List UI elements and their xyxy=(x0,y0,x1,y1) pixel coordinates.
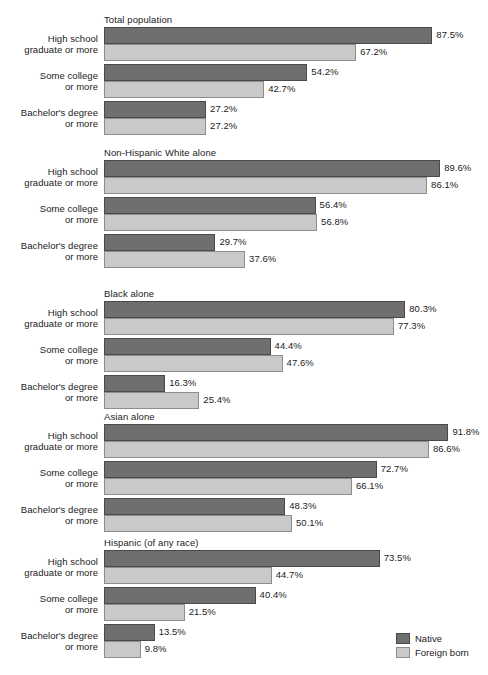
category-label-line2: graduate or more xyxy=(0,178,98,189)
bar-wrapper-foreign: 67.2% xyxy=(104,44,488,61)
bar-value-label: 40.4% xyxy=(260,589,287,601)
bar-wrapper-native: 40.4% xyxy=(104,587,488,604)
bar-foreign[interactable] xyxy=(104,44,356,61)
bar-native[interactable] xyxy=(104,375,165,392)
bar-value-label: 50.1% xyxy=(296,517,323,529)
bar-native[interactable] xyxy=(104,234,215,251)
bar-native[interactable] xyxy=(104,64,307,81)
bar-value-label: 47.6% xyxy=(287,357,314,369)
category-label: Bachelor's degreeor more xyxy=(0,241,98,262)
bar-value-label: 29.7% xyxy=(219,236,246,248)
bar-wrapper-native: 73.5% xyxy=(104,550,488,567)
bar-value-label: 13.5% xyxy=(159,626,186,638)
bar-wrapper-foreign: 86.1% xyxy=(104,177,488,194)
bar-native[interactable] xyxy=(104,461,377,478)
bar-value-label: 9.8% xyxy=(145,643,167,655)
category-label-line2: or more xyxy=(0,252,98,263)
group-title: Total population xyxy=(104,14,172,25)
category-label-line2: graduate or more xyxy=(0,319,98,330)
legend-label-foreign-born: Foreign born xyxy=(415,646,469,659)
bar-foreign[interactable] xyxy=(104,641,141,658)
group-title: Asian alone xyxy=(104,411,155,422)
category-label: Some collegeor more xyxy=(0,204,98,225)
bar-foreign[interactable] xyxy=(104,478,352,495)
category-label-line1: High school xyxy=(48,307,98,318)
bar-wrapper-native: 89.6% xyxy=(104,160,488,177)
bar-value-label: 21.5% xyxy=(189,606,216,618)
bar-native[interactable] xyxy=(104,27,432,44)
bar-foreign[interactable] xyxy=(104,214,317,231)
category-label-line1: Bachelor's degree xyxy=(21,381,98,392)
bar-value-label: 54.2% xyxy=(311,66,338,78)
bar-native[interactable] xyxy=(104,424,448,441)
bar-native[interactable] xyxy=(104,197,316,214)
bar-value-label: 72.7% xyxy=(381,463,408,475)
legend-swatch-foreign-born-icon xyxy=(396,647,410,658)
grouped-bar-chart: Total populationHigh schoolgraduate or m… xyxy=(0,0,488,675)
bar-foreign[interactable] xyxy=(104,441,429,458)
bar-wrapper-native: 91.8% xyxy=(104,424,488,441)
chart-category-row: High schoolgraduate or more80.3%77.3% xyxy=(0,301,488,337)
bar-wrapper-foreign: 77.3% xyxy=(104,318,488,335)
chart-category-row: Bachelor's degreeor more16.3%25.4% xyxy=(0,375,488,411)
bar-native[interactable] xyxy=(104,624,155,641)
bar-foreign[interactable] xyxy=(104,567,272,584)
bar-wrapper-foreign: 56.8% xyxy=(104,214,488,231)
bar-native[interactable] xyxy=(104,338,271,355)
category-label: High schoolgraduate or more xyxy=(0,431,98,452)
chart-category-row: Some collegeor more56.4%56.8% xyxy=(0,197,488,233)
bar-foreign[interactable] xyxy=(104,81,264,98)
category-label: High schoolgraduate or more xyxy=(0,167,98,188)
bar-foreign[interactable] xyxy=(104,355,283,372)
category-label: Bachelor's degreeor more xyxy=(0,631,98,652)
chart-category-row: High schoolgraduate or more87.5%67.2% xyxy=(0,27,488,63)
bar-native[interactable] xyxy=(104,498,285,515)
bar-foreign[interactable] xyxy=(104,118,206,135)
bar-native[interactable] xyxy=(104,301,405,318)
bar-foreign[interactable] xyxy=(104,515,292,532)
bar-native[interactable] xyxy=(104,550,380,567)
bar-foreign[interactable] xyxy=(104,318,394,335)
bar-wrapper-foreign: 27.2% xyxy=(104,118,488,135)
chart-category-row: High schoolgraduate or more73.5%44.7% xyxy=(0,550,488,586)
chart-group: Asian aloneHigh schoolgraduate or more91… xyxy=(0,411,488,535)
bar-value-label: 67.2% xyxy=(360,46,387,58)
bar-foreign[interactable] xyxy=(104,392,199,409)
bar-value-label: 48.3% xyxy=(289,500,316,512)
category-label-line1: Some college xyxy=(40,344,98,355)
category-label-line1: High school xyxy=(48,33,98,44)
bar-value-label: 56.4% xyxy=(320,199,347,211)
legend-label-native: Native xyxy=(415,632,442,645)
bar-value-label: 56.8% xyxy=(321,216,348,228)
category-label-line2: graduate or more xyxy=(0,568,98,579)
bar-foreign[interactable] xyxy=(104,177,427,194)
bar-value-label: 73.5% xyxy=(384,552,411,564)
category-label-line2: or more xyxy=(0,479,98,490)
chart-category-row: Some collegeor more72.7%66.1% xyxy=(0,461,488,497)
bar-wrapper-foreign: 44.7% xyxy=(104,567,488,584)
category-label: High schoolgraduate or more xyxy=(0,557,98,578)
bar-value-label: 86.1% xyxy=(431,179,458,191)
bar-native[interactable] xyxy=(104,587,256,604)
chart-category-row: Bachelor's degreeor more48.3%50.1% xyxy=(0,498,488,534)
category-label: Bachelor's degreeor more xyxy=(0,505,98,526)
chart-group: Total populationHigh schoolgraduate or m… xyxy=(0,14,488,138)
bar-wrapper-foreign: 42.7% xyxy=(104,81,488,98)
category-label-line1: Bachelor's degree xyxy=(21,630,98,641)
category-label-line1: Bachelor's degree xyxy=(21,504,98,515)
bar-foreign[interactable] xyxy=(104,604,185,621)
category-label-line1: Bachelor's degree xyxy=(21,240,98,251)
bar-value-label: 44.4% xyxy=(275,340,302,352)
group-title: Black alone xyxy=(104,288,154,299)
category-label: Some collegeor more xyxy=(0,594,98,615)
category-label: Some collegeor more xyxy=(0,71,98,92)
category-label: Bachelor's degreeor more xyxy=(0,108,98,129)
chart-category-row: Some collegeor more44.4%47.6% xyxy=(0,338,488,374)
category-label-line2: or more xyxy=(0,356,98,367)
bar-foreign[interactable] xyxy=(104,251,245,268)
bar-value-label: 66.1% xyxy=(356,480,383,492)
bar-native[interactable] xyxy=(104,101,206,118)
category-label-line2: or more xyxy=(0,605,98,616)
category-label-line1: High school xyxy=(48,556,98,567)
bar-native[interactable] xyxy=(104,160,440,177)
